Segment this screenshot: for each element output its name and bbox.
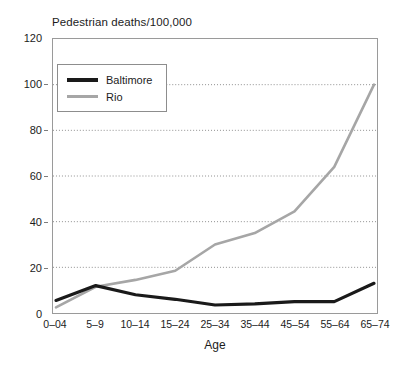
x-tick-label: 25–34 — [200, 318, 229, 330]
x-tick-label: 45–54 — [280, 318, 309, 330]
y-tick-label: 0 — [36, 308, 42, 320]
y-tick-mark — [44, 176, 48, 177]
x-tick-label: 55–64 — [320, 318, 349, 330]
pedestrian-deaths-line-chart: Pedestrian deaths/100,000 02040608010012… — [0, 0, 410, 367]
y-tick-label: 60 — [30, 170, 42, 182]
y-tick-mark — [44, 222, 48, 223]
x-tick-label: 35–44 — [240, 318, 269, 330]
chart-title: Pedestrian deaths/100,000 — [52, 16, 192, 28]
legend-item-rio: Rio — [58, 88, 166, 105]
y-tick-label: 80 — [30, 124, 42, 136]
y-tick-mark — [44, 84, 48, 85]
x-tick-label: 15–24 — [160, 318, 189, 330]
legend: Baltimore Rio — [57, 64, 167, 112]
legend-line-swatch-icon — [67, 95, 98, 98]
y-tick-label: 100 — [24, 78, 42, 90]
x-axis-title: Age — [52, 338, 378, 352]
y-tick-mark — [44, 130, 48, 131]
y-tick-mark — [44, 268, 48, 269]
x-tick-label: 5–9 — [86, 318, 104, 330]
x-tick-label: 65–74 — [360, 318, 389, 330]
y-tick-label: 20 — [30, 262, 42, 274]
series-line-rio — [56, 85, 374, 308]
x-tick-label: 10–14 — [120, 318, 149, 330]
legend-label: Rio — [106, 91, 123, 103]
legend-line-swatch-icon — [67, 78, 98, 82]
x-tick-label: 0–04 — [43, 318, 66, 330]
x-axis: 0–045–910–1415–2425–3435–4445–5455–6465–… — [52, 318, 378, 334]
y-tick-label: 120 — [24, 32, 42, 44]
series-line-baltimore — [56, 283, 374, 305]
y-tick-label: 40 — [30, 216, 42, 228]
legend-item-baltimore: Baltimore — [58, 71, 166, 88]
legend-label: Baltimore — [106, 74, 152, 86]
y-axis: 020406080100120 — [0, 38, 48, 314]
